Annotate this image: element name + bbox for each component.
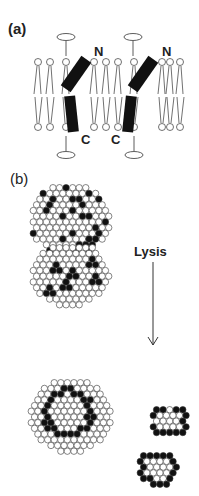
lipid-cluster-2 — [30, 245, 112, 308]
small-cluster-top — [150, 407, 189, 436]
rotation-arrow-icon — [57, 34, 143, 159]
lysis-arrow-icon — [148, 262, 158, 345]
helix-segments — [61, 56, 158, 133]
lipid-cluster-3 — [28, 380, 113, 455]
lipid-bilayer — [34, 59, 184, 131]
small-cluster-bottom — [137, 453, 179, 488]
lipid-cluster-1 — [30, 185, 112, 254]
diagram-canvas — [0, 0, 199, 496]
